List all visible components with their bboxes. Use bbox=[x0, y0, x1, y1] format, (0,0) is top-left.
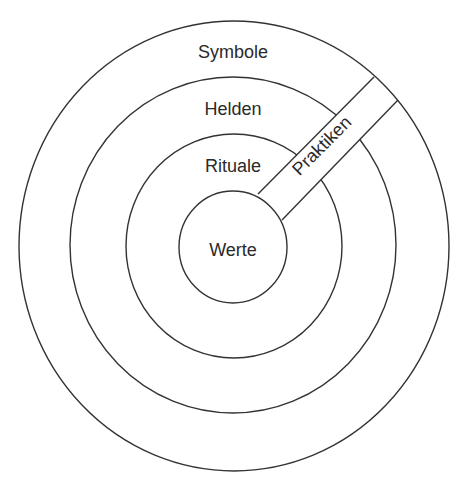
label-rituale: Rituale bbox=[205, 156, 261, 176]
label-helden: Helden bbox=[204, 99, 261, 119]
onion-diagram: Symbole Helden Rituale Werte Praktiken bbox=[0, 0, 459, 494]
label-symbole: Symbole bbox=[198, 42, 268, 62]
label-werte: Werte bbox=[209, 240, 257, 260]
label-praktiken: Praktiken bbox=[288, 112, 355, 179]
